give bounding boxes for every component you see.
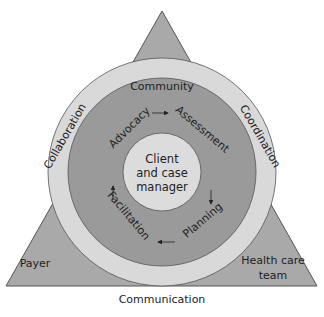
edge-bottom-label: Communication bbox=[119, 293, 206, 306]
corner-right-label-1: Health care bbox=[241, 254, 305, 267]
corner-right-label-2: team bbox=[259, 269, 288, 282]
center-label-3: manager bbox=[136, 180, 188, 194]
corner-top-label: Community bbox=[130, 80, 194, 93]
center-label-1: Client bbox=[145, 152, 179, 166]
center-label-2: and case bbox=[136, 166, 188, 180]
corner-left-label: Payer bbox=[20, 257, 51, 270]
case-management-diagram: Community Payer Health care team Collabo… bbox=[0, 0, 324, 317]
